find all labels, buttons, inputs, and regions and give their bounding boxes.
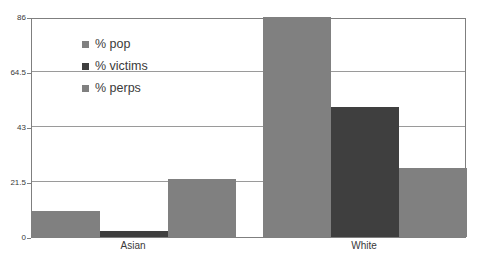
legend-item[interactable]: % perps <box>82 77 148 99</box>
legend-swatch-icon <box>82 85 89 92</box>
y-axis-tick-label: 0 <box>22 234 26 242</box>
legend-swatch-icon <box>82 63 89 70</box>
legend-item[interactable]: % pop <box>82 33 148 55</box>
y-axis-tick-label: 21.5 <box>10 179 26 187</box>
bar <box>168 179 236 237</box>
y-axis: 021.54364.586 <box>0 0 31 271</box>
x-axis-category-label: Asian <box>120 241 145 251</box>
legend-item-label: % perps <box>95 82 141 95</box>
bar <box>399 168 467 237</box>
x-axis: AsianWhite <box>31 241 466 265</box>
chart-legend: % pop% victims% perps <box>82 33 148 99</box>
legend-item[interactable]: % victims <box>82 55 148 77</box>
x-axis-category-label: White <box>351 241 377 251</box>
legend-item-label: % victims <box>95 60 148 73</box>
bar <box>263 17 331 237</box>
y-axis-tick-label: 64.5 <box>10 69 26 77</box>
bar <box>32 211 100 237</box>
bar-chart: 021.54364.586 AsianWhite % pop% victims%… <box>0 0 489 271</box>
y-axis-tick-label: 86 <box>17 14 26 22</box>
legend-item-label: % pop <box>95 38 130 51</box>
bar <box>100 231 168 237</box>
y-axis-tick-mark <box>27 238 31 239</box>
bar <box>331 107 399 237</box>
y-axis-tick-label: 43 <box>17 124 26 132</box>
legend-swatch-icon <box>82 41 89 48</box>
